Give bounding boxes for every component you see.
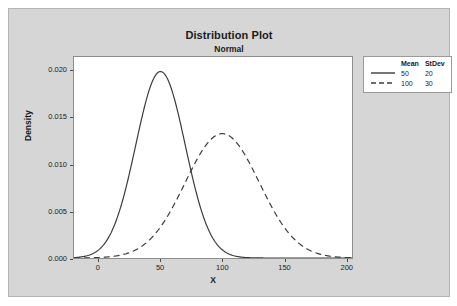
x-tick-mark xyxy=(160,259,161,262)
legend: Mean StDev 50 20 xyxy=(363,56,452,93)
x-tick-label-1: 50 xyxy=(145,263,175,272)
y-tick-mark xyxy=(70,117,73,118)
y-tick-label-2: 0.010 xyxy=(27,160,67,169)
plot-area xyxy=(73,56,353,259)
chart-title: Distribution Plot xyxy=(9,29,449,41)
legend-swatch-header xyxy=(368,60,398,68)
legend-header-stdev: StDev xyxy=(422,60,448,68)
chart-panel: Distribution Plot Normal Density X 0.000… xyxy=(8,8,450,297)
legend-stdev-0: 20 xyxy=(422,68,448,78)
distribution-curves xyxy=(74,57,352,258)
x-axis-title: X xyxy=(73,275,353,285)
y-tick-mark xyxy=(70,165,73,166)
chart-screenshot: Distribution Plot Normal Density X 0.000… xyxy=(0,0,457,306)
legend-line-solid-icon xyxy=(368,68,398,78)
x-tick-label-2: 100 xyxy=(207,263,237,272)
x-tick-mark xyxy=(98,259,99,262)
x-tick-mark xyxy=(285,259,286,262)
y-tick-mark xyxy=(70,212,73,213)
legend-row: 50 20 xyxy=(368,68,448,78)
y-tick-label-0: 0.000 xyxy=(27,254,67,263)
y-tick-label-1: 0.005 xyxy=(27,207,67,216)
legend-table: Mean StDev 50 20 xyxy=(368,60,448,88)
x-tick-mark xyxy=(222,259,223,262)
legend-mean-1: 100 xyxy=(398,78,422,88)
legend-header-mean: Mean xyxy=(398,60,422,68)
x-tick-label-3: 150 xyxy=(270,263,300,272)
y-tick-mark xyxy=(70,259,73,260)
legend-line-dashed-icon xyxy=(368,78,398,88)
legend-stdev-1: 30 xyxy=(422,78,448,88)
curve-normal-50-20 xyxy=(74,72,352,258)
x-tick-label-0: 0 xyxy=(83,263,113,272)
y-tick-label-4: 0.020 xyxy=(27,65,67,74)
legend-mean-0: 50 xyxy=(398,68,422,78)
x-tick-label-4: 200 xyxy=(332,263,362,272)
legend-row: 100 30 xyxy=(368,78,448,88)
y-tick-label-3: 0.015 xyxy=(27,112,67,121)
y-tick-mark xyxy=(70,70,73,71)
x-tick-mark xyxy=(347,259,348,262)
chart-subtitle: Normal xyxy=(9,44,449,54)
